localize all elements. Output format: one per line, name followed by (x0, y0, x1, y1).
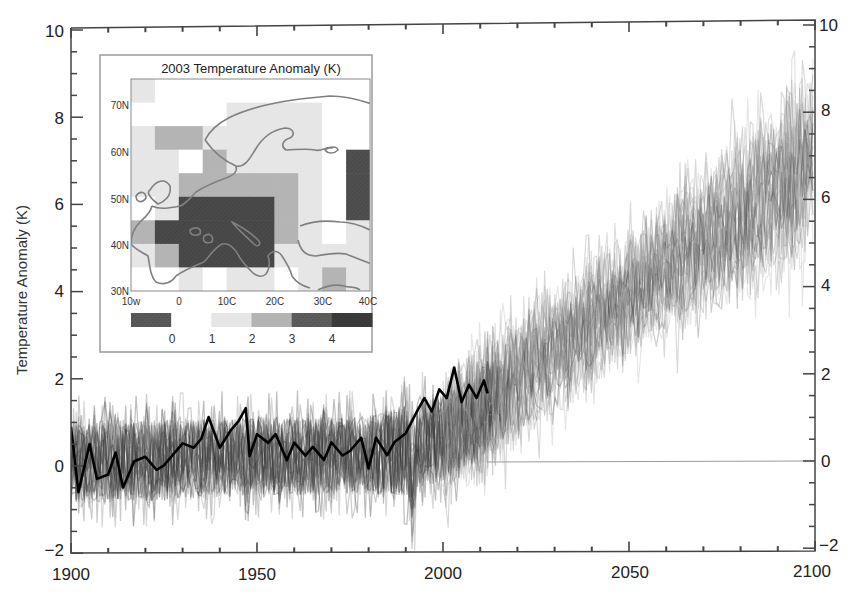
x-tick-1950: 1950 (238, 565, 276, 584)
y-tick-left-10: 10 (45, 22, 64, 41)
x-tick-2050: 2050 (611, 563, 649, 582)
y-axis-title: Temperature Anomaly (K) (13, 205, 30, 375)
lon-label-20e: 20C (266, 296, 284, 307)
colorbar-label-3: 3 (289, 332, 296, 346)
colorbar-label-2: 2 (249, 332, 256, 346)
lon-label-10e: 10C (218, 296, 236, 307)
x-tick-1900: 1900 (52, 565, 90, 584)
temperature-anomaly-chart: 1900 1950 2000 2050 2100 −2 0 2 4 6 8 10… (0, 0, 855, 598)
x-tick-2100: 2100 (793, 562, 831, 581)
inset-map-panel: 2003 Temperature Anomaly (K) 70N 60N 50N… (100, 55, 377, 352)
lon-label-0: 0 (176, 296, 182, 307)
y-tick-right-10: 10 (819, 16, 838, 35)
anomaly-grid-cells (131, 79, 371, 292)
lon-label-10w: 10w (122, 296, 141, 307)
lon-label-30e: 30C (314, 296, 332, 307)
colorbar-label-1: 1 (209, 332, 216, 346)
zero-reference-line (487, 461, 815, 462)
x-tick-2000: 2000 (424, 564, 462, 583)
y-tick-left-0: 0 (55, 457, 64, 476)
y-axis-left-labels: −2 0 2 4 6 8 10 (45, 22, 64, 560)
y-axis-right-labels: −2 0 2 4 6 8 10 (819, 16, 838, 555)
lat-label-60n: 60N (111, 147, 129, 158)
y-tick-left-neg2: −2 (45, 541, 64, 560)
y-tick-right-6: 6 (821, 188, 830, 207)
lat-label-40n: 40N (111, 240, 129, 251)
y-tick-left-2: 2 (55, 370, 64, 389)
colorbar (131, 313, 373, 327)
x-axis-labels: 1900 1950 2000 2050 2100 (52, 562, 831, 584)
y-tick-left-4: 4 (55, 282, 64, 301)
lat-label-50n: 50N (111, 194, 129, 205)
lon-label-40e: 40C (359, 296, 377, 307)
colorbar-label-4: 4 (329, 332, 336, 346)
y-tick-left-8: 8 (55, 109, 64, 128)
y-tick-right-2: 2 (821, 365, 830, 384)
lat-label-70n: 70N (111, 100, 129, 111)
y-tick-left-6: 6 (55, 195, 64, 214)
y-tick-right-4: 4 (821, 276, 830, 295)
colorbar-label-0: 0 (169, 332, 176, 346)
y-tick-right-8: 8 (821, 101, 830, 120)
inset-title: 2003 Temperature Anomaly (K) (161, 61, 341, 76)
y-tick-right-neg2: −2 (819, 536, 838, 555)
y-tick-right-0: 0 (821, 452, 830, 471)
